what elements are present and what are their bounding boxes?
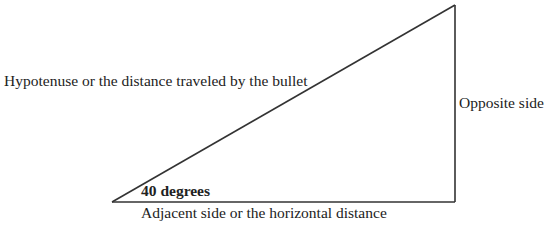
triangle-diagram: Hypotenuse or the distance traveled by t… [0,0,545,228]
angle-label: 40 degrees [141,183,210,199]
hypotenuse-label: Hypotenuse or the distance traveled by t… [4,73,307,89]
hypotenuse-line [112,5,455,202]
triangle-shape [0,0,545,228]
opposite-side-label: Opposite side [459,95,544,111]
adjacent-side-label: Adjacent side or the horizontal distance [141,205,387,221]
